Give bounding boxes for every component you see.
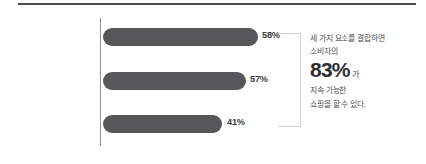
callout-line-2: 소비자의 <box>310 45 422 58</box>
bar-shape <box>103 28 258 46</box>
chart-row: 상품 품질 58% <box>0 26 300 48</box>
callout-big-suffix: 가 <box>352 69 360 79</box>
grouping-bracket <box>278 33 301 127</box>
callout-line-4: 쇼핑을 할 수 있다. <box>310 98 422 111</box>
callout-line-3: 지속 가능한 <box>310 84 422 97</box>
callout-statistic: 83% 가 <box>310 59 422 81</box>
callout-big-number: 83% <box>310 59 350 81</box>
summary-callout: 세 가지 요소를 결합하면 소비자의 83% 가 지속 가능한 쇼핑을 할 수 … <box>310 32 422 111</box>
chart-row: 지불 가능한 가격/가격 대비 가치 57% <box>0 70 300 92</box>
bar-shape <box>103 72 246 90</box>
bar-track <box>103 72 246 90</box>
bar-track <box>103 115 222 133</box>
bar-value-label: 41% <box>227 117 245 127</box>
callout-line-1: 세 가지 요소를 결합하면 <box>310 32 422 45</box>
bar-track <box>103 28 258 46</box>
bar-value-label: 57% <box>250 74 268 84</box>
infographic-chart-panel: 상품 품질 58% 지불 가능한 가격/가격 대비 가치 57% 개인의 소비 … <box>0 0 426 164</box>
chart-row: 개인의 소비 영향력 41% <box>0 113 300 135</box>
bar-shape <box>103 115 222 133</box>
